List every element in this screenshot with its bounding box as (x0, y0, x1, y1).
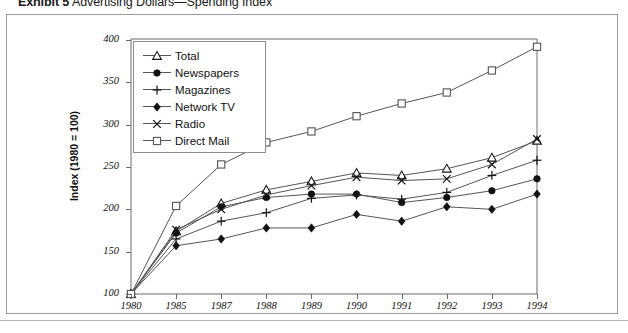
legend-label: Total (175, 50, 199, 62)
legend-label: Network TV (175, 101, 235, 113)
legend-marker-svg (143, 100, 171, 114)
marker-circle-filled (154, 69, 161, 76)
chart-frame (6, 14, 618, 314)
exhibit-number: Exhibit 5 (18, 0, 69, 9)
legend-marker-triangle-open-icon (143, 49, 171, 63)
legend-label: Radio (175, 118, 205, 130)
marker-triangle-open (153, 51, 162, 59)
chart-legend: TotalNewspapersMagazinesNetwork TVRadioD… (133, 41, 266, 153)
legend-item-magazines[interactable]: Magazines (134, 81, 265, 98)
legend-marker-svg (143, 66, 171, 80)
legend-marker-square-open-icon (143, 134, 171, 148)
marker-diamond-filled (154, 102, 161, 110)
marker-square-open (153, 137, 160, 144)
legend-marker-circle-filled-icon (143, 66, 171, 80)
exhibit-caption: Advertising Dollars—Spending Index (72, 0, 272, 9)
legend-marker-svg (143, 83, 171, 97)
legend-marker-plus-icon (143, 83, 171, 97)
legend-marker-svg (143, 117, 171, 131)
legend-label: Newspapers (175, 67, 239, 79)
bottom-divider (0, 320, 628, 321)
legend-marker-svg (143, 49, 171, 63)
legend-label: Magazines (175, 84, 231, 96)
legend-marker-cross-icon (143, 117, 171, 131)
legend-marker-diamond-filled-icon (143, 100, 171, 114)
marker-plus (153, 85, 162, 94)
legend-item-direct-mail[interactable]: Direct Mail (134, 132, 265, 149)
legend-marker-svg (143, 134, 171, 148)
marker-cross (153, 120, 161, 128)
legend-item-total[interactable]: Total (134, 47, 265, 64)
legend-item-newspapers[interactable]: Newspapers (134, 64, 265, 81)
legend-item-radio[interactable]: Radio (134, 115, 265, 132)
exhibit-title: Exhibit 5 Advertising Dollars—Spending I… (18, 0, 272, 15)
legend-item-network-tv[interactable]: Network TV (134, 98, 265, 115)
legend-label: Direct Mail (175, 135, 229, 147)
